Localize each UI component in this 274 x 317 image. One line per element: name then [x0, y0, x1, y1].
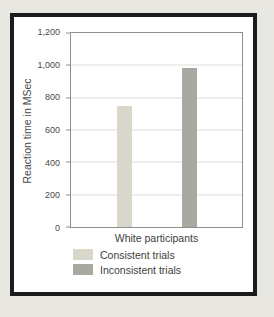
legend-swatch-consistent-trials: [73, 249, 93, 260]
y-axis-tickmark: [66, 97, 70, 98]
y-axis-tick-label: 600: [45, 125, 60, 135]
y-axis-tick-label: 800: [45, 92, 60, 102]
y-axis-tick-label: 400: [45, 158, 60, 168]
gridline: [71, 162, 242, 163]
y-axis-tick-label: 200: [45, 190, 60, 200]
legend: Consistent trials Inconsistent trials: [73, 248, 181, 278]
y-axis-tickmark: [66, 162, 70, 163]
figure-frame: Reaction time in MSec 02004006008001,000…: [10, 13, 257, 296]
figure-background: Reaction time in MSec 02004006008001,000…: [0, 0, 274, 317]
gridline: [71, 65, 242, 66]
y-axis-tickmark: [66, 194, 70, 195]
y-axis-tick-label: 1,200: [37, 27, 60, 37]
legend-item-consistent-trials: Consistent trials: [73, 248, 181, 261]
gridline: [71, 194, 242, 195]
legend-swatch-inconsistent-trials: [73, 264, 93, 275]
y-axis-tickmark: [66, 33, 70, 34]
gridline: [71, 97, 242, 98]
legend-item-inconsistent-trials: Inconsistent trials: [73, 263, 181, 276]
y-axis-tickmark: [66, 227, 70, 228]
legend-label-consistent-trials: Consistent trials: [100, 249, 175, 261]
bar-inconsistent-trials: [182, 68, 197, 227]
x-axis-category-label: White participants: [70, 232, 243, 244]
y-axis-tick-labels: 02004006008001,0001,200: [14, 32, 64, 228]
legend-label-inconsistent-trials: Inconsistent trials: [100, 264, 181, 276]
y-axis-tickmark: [66, 65, 70, 66]
y-axis-tick-label: 0: [55, 223, 60, 233]
plot-area: [70, 32, 243, 228]
bar-consistent-trials: [117, 106, 132, 227]
gridline: [71, 130, 242, 131]
y-axis-tick-label: 1,000: [37, 60, 60, 70]
y-axis-tickmark: [66, 130, 70, 131]
